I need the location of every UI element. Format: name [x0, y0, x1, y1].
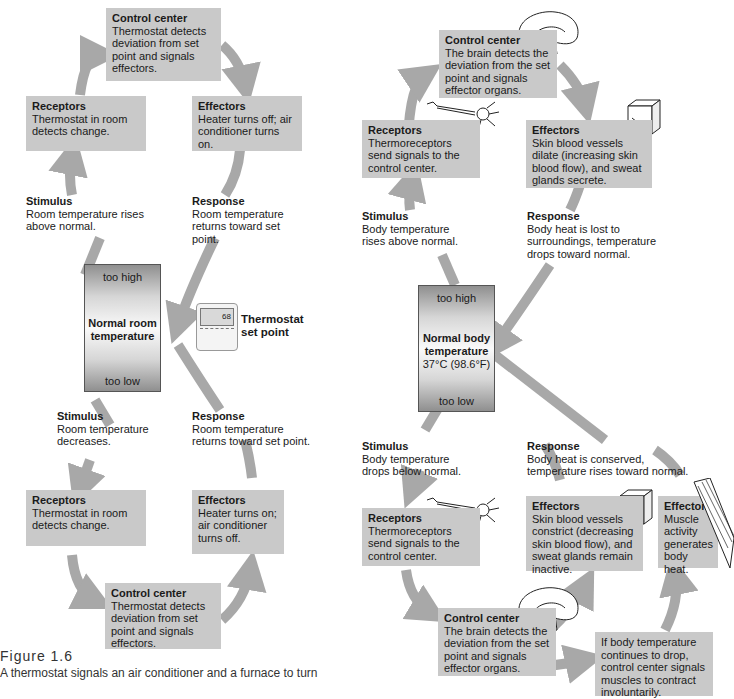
label-title: Stimulus [57, 410, 157, 423]
right-effectors-top: Effectors Skin blood vessels dilate (inc… [526, 120, 652, 188]
box-title: Receptors [32, 100, 140, 113]
left-control-center-top: Control center Thermostat detects deviat… [106, 8, 221, 81]
box-text: Thermoreceptors send signals to the cont… [368, 137, 460, 174]
right-stimulus-bottom: Stimulus Body temperature drops below no… [362, 440, 462, 478]
label-text: Body heat is conserved, temperature rise… [527, 453, 688, 478]
muscle-icon [690, 478, 734, 568]
figure-title: Figure 1.6 [0, 648, 73, 664]
right-control-center-bottom: Control center The brain detects the dev… [438, 608, 556, 676]
right-effectors-skin: Effectors Skin blood vessels constrict (… [526, 496, 643, 571]
label-text: Room temperature returns toward set poin… [192, 423, 310, 448]
right-control-center-top: Control center The brain detects the dev… [439, 30, 557, 98]
right-shivering-note: If body temperature continues to drop, c… [595, 632, 713, 696]
left-receptors-bottom: Receptors Thermostat in room detects cha… [26, 490, 146, 546]
box-text: Heater turns off; air conditioner turns … [198, 113, 292, 150]
right-temperature-gauge: too high Normal body temperature 37°C (9… [418, 285, 495, 412]
set-point-label: Normal body temperature 37°C (98.6°F) [419, 332, 494, 371]
label-text: Room temperature rises above normal. [26, 208, 144, 233]
right-receptors-bottom: Receptors Thermoreceptors send signals t… [362, 508, 480, 566]
box-text: Heater turns on; air conditioner turns o… [198, 507, 277, 544]
thermostat-buttons [200, 328, 234, 331]
left-stimulus-bottom: Stimulus Room temperature decreases. [57, 410, 157, 448]
right-stimulus-top: Stimulus Body temperature rises above no… [362, 210, 462, 248]
too-high-label: too high [419, 292, 494, 304]
box-title: Control center [111, 587, 215, 600]
right-response-bottom: Response Body heat is conserved, tempera… [527, 440, 697, 478]
left-control-center-bottom: Control center Thermostat detects deviat… [105, 583, 221, 649]
box-title: Receptors [368, 512, 474, 525]
left-receptors-top: Receptors Thermostat in room detects cha… [26, 96, 146, 151]
left-response-bottom: Response Room temperature returns toward… [192, 410, 312, 448]
label-title: Response [527, 440, 697, 453]
label-title: Response [527, 210, 657, 223]
label-title: Stimulus [362, 440, 462, 453]
right-receptors-top: Receptors Thermoreceptors send signals t… [362, 120, 480, 178]
box-text: Skin blood vessels constrict (decreasing… [532, 513, 634, 575]
box-title: Receptors [32, 494, 140, 507]
label-title: Response [192, 195, 287, 208]
box-title: Effectors [532, 500, 637, 513]
box-text: The brain detects the deviation from the… [445, 47, 550, 97]
set-point-title: Normal body temperature [423, 332, 490, 357]
too-low-label: too low [85, 375, 160, 387]
label-text: Body temperature drops below normal. [362, 453, 461, 478]
box-text: Thermostat detects deviation from set po… [111, 600, 205, 650]
thermostat-display: 68 [200, 308, 234, 326]
left-temperature-gauge: too high Normal room temperature too low [84, 264, 161, 392]
box-title: Receptors [368, 124, 474, 137]
too-high-label: too high [85, 271, 160, 283]
label-title: Stimulus [26, 195, 156, 208]
left-effectors-top: Effectors Heater turns off; air conditio… [192, 96, 302, 151]
thermostat-icon: 68 [196, 303, 238, 351]
thermostat-set-point-label: Thermostat set point [241, 313, 301, 338]
box-title: Control center [444, 612, 550, 625]
label-text: Body temperature rises above normal. [362, 223, 458, 248]
label-title: Stimulus [362, 210, 462, 223]
box-text: If body temperature continues to drop, c… [601, 636, 705, 698]
box-title: Control center [445, 34, 551, 47]
label-text: Body heat is lost to surroundings, tempe… [527, 223, 656, 260]
left-effectors-bottom: Effectors Heater turns on; air condition… [192, 490, 284, 554]
too-low-label: too low [419, 395, 494, 407]
left-stimulus-top: Stimulus Room temperature rises above no… [26, 195, 156, 233]
set-point-value: 37°C (98.6°F) [419, 358, 494, 371]
box-title: Effectors [198, 100, 296, 113]
box-text: Thermostat in room detects change. [32, 113, 127, 138]
label-text: Room temperature returns toward set poin… [192, 208, 284, 245]
box-text: Thermostat detects deviation from set po… [112, 25, 206, 75]
label-text: Room temperature decreases. [57, 423, 149, 448]
box-title: Control center [112, 12, 215, 25]
box-text: The brain detects the deviation from the… [444, 625, 549, 675]
box-text: Thermoreceptors send signals to the cont… [368, 525, 460, 562]
box-title: Effectors [198, 494, 278, 507]
label-title: Response [192, 410, 312, 423]
right-response-top: Response Body heat is lost to surroundin… [527, 210, 657, 260]
set-point-label: Normal room temperature [85, 317, 160, 343]
left-response-top: Response Room temperature returns toward… [192, 195, 287, 245]
box-text: Thermostat in room detects change. [32, 507, 127, 532]
box-text: Skin blood vessels dilate (increasing sk… [532, 137, 641, 187]
figure-caption: A thermostat signals an air conditioner … [0, 666, 318, 680]
box-title: Effectors [532, 124, 646, 137]
